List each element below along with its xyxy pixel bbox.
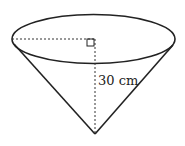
height-label: 30 cm <box>98 73 138 88</box>
cone-left-side <box>14 44 95 134</box>
cone-right-side <box>95 45 173 134</box>
right-angle-marker <box>87 39 94 46</box>
cone-diagram: 30 cm <box>0 0 185 146</box>
